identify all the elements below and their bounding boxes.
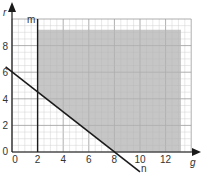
inequality-graph: 02468101202468 r g m n bbox=[0, 0, 203, 176]
y-tick-label: 6 bbox=[2, 67, 8, 78]
y-axis-label: r bbox=[3, 7, 7, 18]
x-tick-label: 8 bbox=[112, 154, 118, 165]
x-tick-label: 6 bbox=[86, 154, 92, 165]
line-n-label: n bbox=[141, 163, 147, 174]
x-tick-label: 4 bbox=[60, 154, 66, 165]
shaded-region bbox=[38, 30, 181, 152]
y-axis-arrow-icon bbox=[8, 2, 16, 12]
y-tick-label: 4 bbox=[2, 94, 8, 105]
x-tick-label: 0 bbox=[12, 154, 18, 165]
y-tick-label: 0 bbox=[2, 146, 8, 157]
x-axis-arrow-icon bbox=[192, 148, 201, 156]
x-tick-label: 2 bbox=[35, 154, 41, 165]
x-tick-label: 12 bbox=[160, 154, 172, 165]
x-axis-label: g bbox=[190, 157, 196, 168]
line-m-label: m bbox=[27, 14, 35, 25]
y-tick-label: 2 bbox=[2, 120, 8, 131]
y-tick-label: 8 bbox=[2, 41, 8, 52]
